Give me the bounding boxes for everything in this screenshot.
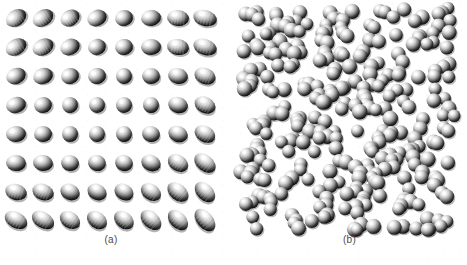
fluid-sphere [441, 155, 457, 171]
lattice-particle [191, 36, 221, 61]
fluid-sphere [351, 125, 365, 139]
lattice-particle [29, 181, 57, 206]
fluid-sphere [448, 109, 462, 123]
lattice-particle [110, 180, 137, 206]
fluid-sphere [366, 219, 382, 236]
ordered-lattice-render [0, 0, 222, 232]
panel-b: (b) [232, 0, 467, 265]
lattice-particle [189, 205, 220, 237]
lattice-particle [141, 39, 163, 57]
lattice-particle [113, 7, 137, 29]
lattice-particle [84, 180, 111, 206]
lattice-particle [57, 5, 84, 31]
fluid-sphere [260, 127, 274, 141]
panel-b-stage [232, 0, 467, 232]
lattice-particle [190, 178, 220, 208]
disordered-fluid-render [232, 0, 467, 232]
lattice-particle [33, 95, 56, 116]
lattice-particle [29, 5, 58, 32]
fluid-sphere [442, 25, 458, 41]
lattice-particle [112, 152, 136, 175]
lattice-particle [4, 94, 29, 116]
lattice-particle [2, 4, 31, 32]
fluid-sphere [301, 173, 315, 187]
lattice-particle [191, 122, 220, 149]
fluid-sphere [401, 100, 417, 116]
lattice-particle [142, 96, 162, 116]
lattice-particle [166, 66, 191, 88]
lattice-particle [5, 125, 28, 145]
lattice-particle [58, 35, 85, 60]
lattice-particle [31, 65, 57, 89]
lattice-particle [115, 67, 134, 86]
lattice-particle [141, 67, 162, 86]
fluid-sphere [373, 189, 388, 204]
fluid-sphere [411, 70, 427, 86]
lattice-particle [165, 123, 191, 147]
lattice-particle [2, 34, 31, 61]
lattice-particle [164, 150, 193, 177]
lattice-particle [30, 34, 59, 60]
panel-a-caption: (a) [0, 234, 222, 246]
lattice-particle [62, 126, 79, 144]
lattice-particle [140, 124, 163, 146]
fluid-sphere [389, 28, 404, 43]
fluid-sphere [308, 145, 322, 159]
lattice-particle [190, 149, 221, 179]
lattice-particle [109, 207, 138, 236]
lattice-particle [85, 6, 112, 31]
panel-a-stage [0, 0, 222, 232]
lattice-particle [82, 207, 111, 235]
lattice-particle [166, 95, 191, 118]
lattice-particle [138, 152, 165, 177]
lattice-particle [61, 96, 81, 116]
fluid-sphere [442, 70, 456, 84]
lattice-particle [57, 181, 84, 206]
lattice-particle [28, 207, 59, 235]
panel-b-caption: (b) [232, 234, 467, 246]
sphere-layer [233, 2, 461, 239]
lattice-particle [87, 66, 109, 87]
lattice-particle [88, 125, 107, 144]
lattice-particle [163, 178, 194, 208]
lattice-particle [86, 153, 110, 175]
lattice-particle [115, 125, 135, 145]
fluid-sphere [440, 41, 455, 56]
lattice-particle [191, 7, 220, 30]
lattice-particle [33, 125, 54, 144]
lattice-particle [191, 93, 220, 119]
lattice-particle [1, 207, 32, 235]
lattice-particle [136, 179, 165, 207]
lattice-particle [114, 37, 136, 58]
lattice-particle [89, 97, 107, 115]
lattice-particle [32, 154, 56, 174]
lattice-particle [59, 153, 82, 174]
figure-container: (a) (b) [0, 0, 467, 265]
lattice-particle [166, 9, 191, 28]
lattice-particle [191, 64, 219, 89]
lattice-particle [140, 8, 164, 28]
fluid-sphere [439, 189, 455, 205]
lattice-particle [86, 36, 110, 59]
lattice-particle [5, 154, 28, 173]
lattice-particle [116, 97, 134, 115]
fluid-sphere [441, 124, 456, 139]
fluid-sphere [412, 198, 426, 212]
lattice-particle [136, 206, 167, 236]
lattice-particle [59, 65, 83, 87]
fluid-sphere [262, 159, 277, 174]
lattice-particle [166, 38, 192, 59]
lattice-particle [3, 181, 30, 204]
panel-a: (a) [0, 0, 222, 265]
lattice-particle [55, 207, 84, 235]
fluid-sphere [340, 29, 356, 45]
lattice-particle [4, 64, 30, 88]
lattice-particle [163, 206, 193, 237]
